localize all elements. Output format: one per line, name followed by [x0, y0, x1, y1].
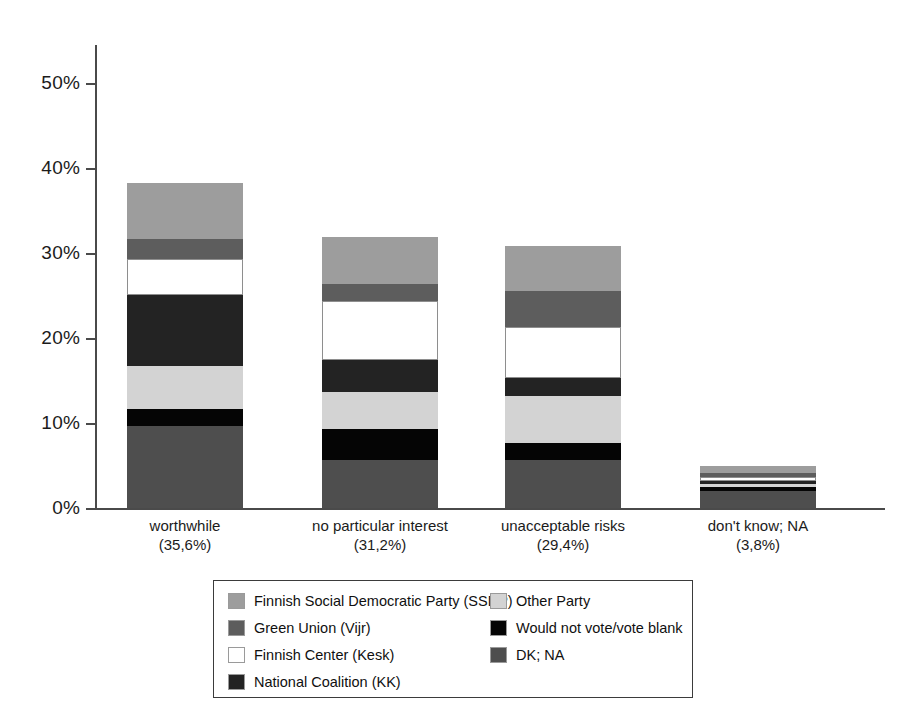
legend-item: Other Party: [490, 592, 692, 610]
plot-area: 50%40%30%20%10%0%: [95, 40, 885, 510]
legend-label: DK; NA: [516, 647, 564, 663]
bar-segment: [322, 360, 438, 392]
x-axis-label-name: unacceptable risks: [501, 517, 625, 534]
bar-segment: [322, 429, 438, 460]
bar-segment: [322, 301, 438, 360]
bar-segment: [322, 392, 438, 429]
legend-column-left: Finnish Social Democratic Party (SSDP)Gr…: [228, 592, 480, 691]
bar-segment: [505, 327, 621, 378]
x-axis-label-0: worthwhile(35,6%): [75, 516, 295, 554]
x-axis-label-2: unacceptable risks(29,4%): [453, 516, 673, 554]
legend-swatch-icon: [228, 674, 245, 690]
legend-swatch-icon: [490, 620, 507, 636]
y-tick-40: 40%: [86, 168, 95, 170]
y-tick-label: 30%: [41, 242, 80, 264]
bar-segment: [127, 409, 243, 426]
legend-column-right: Other PartyWould not vote/vote blankDK; …: [490, 592, 692, 691]
y-axis-line: [95, 45, 97, 510]
x-axis-label-3: don't know; NA(3,8%): [648, 516, 868, 554]
bar-segment: [127, 183, 243, 239]
y-tick-label: 40%: [41, 157, 80, 179]
bar-2: [505, 246, 621, 508]
x-axis-line: [95, 508, 885, 510]
legend-item: DK; NA: [490, 646, 692, 664]
bar-segment: [700, 466, 816, 473]
y-tick-50: 50%: [86, 83, 95, 85]
bar-segment: [127, 239, 243, 259]
legend-label: National Coalition (KK): [254, 674, 401, 690]
x-axis-label-percent: (29,4%): [453, 535, 673, 554]
legend-swatch-icon: [490, 593, 507, 609]
legend-label: Finnish Center (Kesk): [254, 647, 394, 663]
bar-segment: [322, 284, 438, 302]
y-tick-label: 10%: [41, 412, 80, 434]
y-tick-label: 50%: [41, 72, 80, 94]
stacked-bar-chart: 50%40%30%20%10%0% worthwhile(35,6%)no pa…: [0, 0, 905, 726]
bar-segment: [505, 291, 621, 327]
y-tick-30: 30%: [86, 253, 95, 255]
y-tick-20: 20%: [86, 338, 95, 340]
bar-0: [127, 183, 243, 508]
x-axis-label-percent: (3,8%): [648, 535, 868, 554]
legend-item: Green Union (Vijr): [228, 619, 480, 637]
legend-swatch-icon: [228, 647, 245, 663]
legend-label: Finnish Social Democratic Party (SSDP): [254, 593, 513, 609]
legend-label: Would not vote/vote blank: [516, 620, 683, 636]
bar-segment: [505, 246, 621, 291]
x-axis-label-name: worthwhile: [150, 517, 221, 534]
bar-segment: [127, 259, 243, 295]
legend-swatch-icon: [228, 620, 245, 636]
legend-item: Finnish Center (Kesk): [228, 646, 480, 664]
bar-segment: [700, 491, 816, 508]
bar-segment: [505, 460, 621, 508]
bar-3: [700, 466, 816, 508]
bar-segment: [127, 295, 243, 366]
legend-label: Other Party: [516, 593, 590, 609]
bar-segment: [322, 460, 438, 508]
bar-segment: [127, 366, 243, 409]
legend-item: Would not vote/vote blank: [490, 619, 692, 637]
y-tick-label: 20%: [41, 327, 80, 349]
bar-segment: [322, 237, 438, 284]
x-axis-label-percent: (35,6%): [75, 535, 295, 554]
legend: Finnish Social Democratic Party (SSDP)Gr…: [213, 580, 693, 698]
legend-item: National Coalition (KK): [228, 673, 480, 691]
x-axis-label-name: don't know; NA: [708, 517, 808, 534]
legend-swatch-icon: [228, 593, 245, 609]
y-tick-0: 0%: [86, 508, 95, 510]
legend-label: Green Union (Vijr): [254, 620, 371, 636]
bar-segment: [127, 426, 243, 508]
x-axis-label-name: no particular interest: [312, 517, 448, 534]
bar-1: [322, 237, 438, 508]
legend-swatch-icon: [490, 647, 507, 663]
y-tick-10: 10%: [86, 423, 95, 425]
bar-segment: [505, 443, 621, 461]
legend-item: Finnish Social Democratic Party (SSDP): [228, 592, 480, 610]
bar-segment: [505, 396, 621, 443]
bar-segment: [505, 378, 621, 396]
